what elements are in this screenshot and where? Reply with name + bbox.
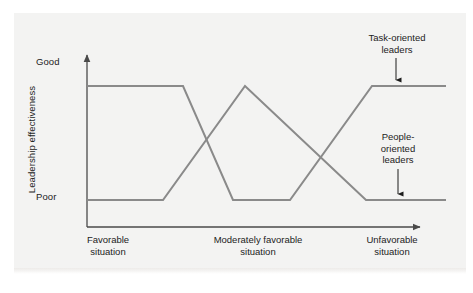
y-axis-tick-poor: Poor	[36, 191, 56, 203]
x-axis-category-unfavorable: Unfavorable situation	[340, 234, 444, 257]
annotation-people-oriented-leaders: People- oriented leaders	[355, 131, 441, 166]
annotation-task-oriented-leaders: Task-oriented leaders	[345, 32, 449, 55]
y-axis-tick-good: Good	[36, 56, 60, 68]
chart-figure: Good Poor Leadership effectiveness Favor…	[0, 0, 473, 293]
y-axis-title: Leadership effectiveness	[26, 65, 37, 215]
x-axis-category-favorable: Favorable situation	[62, 234, 154, 257]
x-axis-category-moderately-favorable: Moderately favorable situation	[183, 234, 333, 257]
